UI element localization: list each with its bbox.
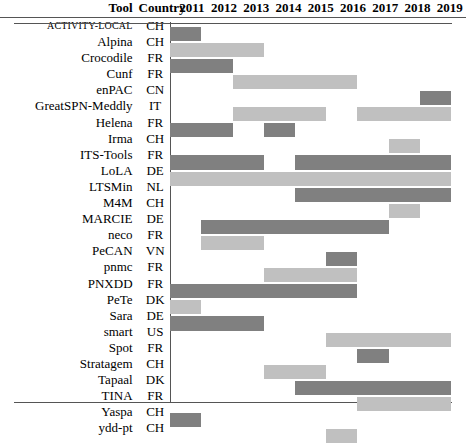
participation-cell	[272, 276, 304, 292]
participation-cell	[401, 259, 433, 275]
table-row: ACTIVITY-LOCALCH	[0, 18, 466, 35]
participation-cell	[305, 420, 337, 436]
participation-cell	[272, 211, 304, 227]
participation-table: Tool Country 2011 2012 2013 2014 2015 20…	[0, 0, 466, 436]
tool-name: enPAC	[0, 82, 139, 98]
participation-cell	[434, 259, 466, 275]
participation-cell	[401, 18, 433, 35]
participation-cell	[240, 259, 272, 275]
participation-cell	[305, 356, 337, 372]
participation-cell	[176, 372, 208, 388]
participation-cell	[369, 179, 401, 195]
tool-name: ITS-Tools	[0, 147, 139, 163]
participation-cell	[369, 404, 401, 420]
table-row: PNXDDFR	[0, 276, 466, 292]
participation-cell	[176, 420, 208, 436]
tool-name: Spot	[0, 340, 139, 356]
tool-name: Crocodile	[0, 50, 139, 66]
participation-cell	[272, 243, 304, 259]
participation-cell	[434, 292, 466, 308]
participation-cell	[305, 179, 337, 195]
participation-cell	[337, 50, 369, 66]
participation-cell	[401, 163, 433, 179]
participation-cell	[434, 308, 466, 324]
participation-cell	[208, 308, 240, 324]
table-row: necoFR	[0, 227, 466, 243]
participation-cell	[434, 211, 466, 227]
participation-cell	[305, 66, 337, 82]
header-row: Tool Country 2011 2012 2013 2014 2015 20…	[0, 0, 466, 18]
participation-cell	[176, 340, 208, 356]
tool-name: LoLA	[0, 163, 139, 179]
column-header-year-2017: 2017	[369, 0, 401, 18]
participation-cell	[369, 34, 401, 50]
tool-name: GreatSPN-Meddly	[0, 98, 139, 114]
participation-cell	[272, 66, 304, 82]
participation-cell	[176, 98, 208, 114]
participation-cell	[240, 163, 272, 179]
column-header-year-2014: 2014	[272, 0, 304, 18]
participation-cell	[434, 420, 466, 436]
participation-cell	[369, 227, 401, 243]
participation-cell	[240, 211, 272, 227]
column-header-year-2013: 2013	[240, 0, 272, 18]
participation-cell	[337, 340, 369, 356]
participation-cell	[272, 50, 304, 66]
participation-cell	[434, 66, 466, 82]
tool-name: Helena	[0, 115, 139, 131]
participation-cell	[434, 227, 466, 243]
participation-cell	[208, 163, 240, 179]
participation-cell	[176, 147, 208, 163]
participation-cell	[369, 211, 401, 227]
participation-cell	[401, 227, 433, 243]
participation-cell	[434, 324, 466, 340]
participation-cell	[240, 404, 272, 420]
participation-cell	[434, 18, 466, 35]
vertical-rule	[170, 22, 171, 402]
participation-cell	[337, 276, 369, 292]
participation-cell	[369, 292, 401, 308]
participation-cell	[434, 50, 466, 66]
participation-cell	[240, 324, 272, 340]
participation-cell	[272, 308, 304, 324]
tool-name: Tapaal	[0, 372, 139, 388]
table-row: IrmaCH	[0, 131, 466, 147]
participation-cell	[401, 82, 433, 98]
table-row: enPACCN	[0, 82, 466, 98]
participation-cell	[208, 276, 240, 292]
participation-cell	[240, 195, 272, 211]
header-rule-top	[14, 23, 452, 24]
table-row: M4MCH	[0, 195, 466, 211]
participation-cell	[434, 115, 466, 131]
table-row: HelenaFR	[0, 115, 466, 131]
participation-cell	[337, 292, 369, 308]
participation-cell	[208, 356, 240, 372]
participation-cell	[208, 50, 240, 66]
participation-cell	[401, 308, 433, 324]
participation-cell	[272, 98, 304, 114]
table-row: PeTeDK	[0, 292, 466, 308]
participation-cell	[434, 98, 466, 114]
participation-cell	[305, 404, 337, 420]
participation-cell	[434, 356, 466, 372]
participation-cell	[305, 324, 337, 340]
participation-cell	[337, 259, 369, 275]
participation-cell	[305, 227, 337, 243]
participation-cell	[208, 66, 240, 82]
participation-cell	[208, 195, 240, 211]
tool-name: Irma	[0, 131, 139, 147]
participation-cell	[176, 179, 208, 195]
participation-cell	[401, 98, 433, 114]
participation-cell	[272, 292, 304, 308]
participation-cell	[176, 308, 208, 324]
participation-cell	[272, 195, 304, 211]
participation-cell	[272, 82, 304, 98]
tool-name: pnmc	[0, 259, 139, 275]
participation-cell	[401, 340, 433, 356]
participation-cell	[305, 50, 337, 66]
participation-cell	[337, 82, 369, 98]
tool-name: PNXDD	[0, 276, 139, 292]
participation-cell	[401, 195, 433, 211]
tool-name: Alpina	[0, 34, 139, 50]
